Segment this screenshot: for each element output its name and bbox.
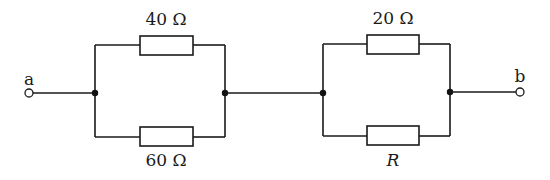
terminal-a-node-icon bbox=[25, 89, 33, 97]
circuit-diagram: a 40 Ω 60 Ω 20 Ω bbox=[0, 0, 550, 180]
resistor-40-ohm-label: 40 Ω bbox=[145, 9, 186, 29]
junction-dot-icon bbox=[320, 90, 326, 96]
resistor-20-ohm-icon bbox=[367, 35, 419, 54]
terminal-b-node-icon bbox=[516, 88, 524, 96]
resistor-r-label: R bbox=[386, 150, 400, 170]
terminal-a: a bbox=[24, 69, 34, 97]
resistor-60-ohm-label: 60 Ω bbox=[145, 150, 186, 170]
terminal-b-label: b bbox=[515, 66, 526, 86]
parallel-block-1: 40 Ω 60 Ω bbox=[92, 9, 228, 170]
resistor-40-ohm-icon bbox=[140, 36, 193, 55]
resistor-60-ohm-icon bbox=[140, 127, 193, 146]
terminal-a-label: a bbox=[24, 69, 34, 89]
parallel-block-2: 20 Ω R bbox=[320, 8, 453, 170]
resistor-20-ohm-label: 20 Ω bbox=[372, 8, 413, 28]
junction-dot-icon bbox=[92, 90, 98, 96]
resistor-r-icon bbox=[367, 126, 419, 145]
terminal-b: b bbox=[515, 66, 526, 96]
